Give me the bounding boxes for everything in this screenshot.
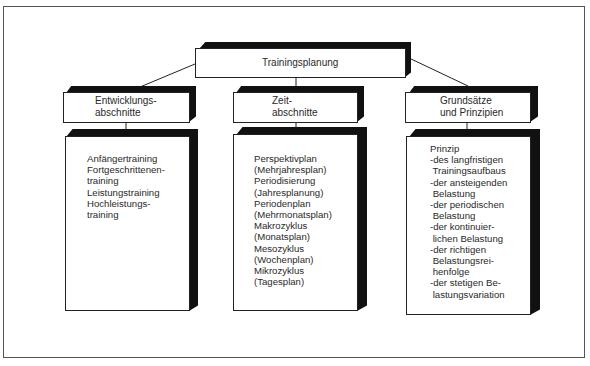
list-item: Periodenplan <box>254 198 332 209</box>
list-item: (Mehrjahresplan) <box>254 164 332 175</box>
principles-list: Prinzip -des langfristigen Trainingsaufb… <box>430 143 507 300</box>
list-item: (Jahresplanung) <box>254 187 332 198</box>
list-item: Belastungsrei- <box>430 255 507 266</box>
list-item: Fortgeschrittenen- <box>87 164 165 175</box>
list-item: Belastung <box>430 210 507 221</box>
list-item: training <box>87 175 165 186</box>
list-item: (Tagesplan) <box>254 276 332 287</box>
list-item: Makrozyklus <box>254 220 332 231</box>
list-item: -der periodischen <box>430 199 507 210</box>
list-item: (Mehrmonatsplan) <box>254 209 332 220</box>
list-item: Hochleistungs- <box>87 198 165 209</box>
list-item: Leistungstraining <box>87 187 165 198</box>
development-list: Anfängertraining Fortgeschrittenen- trai… <box>87 153 165 220</box>
list-item: Belastung <box>430 188 507 199</box>
title-label: Trainingsplanung <box>262 57 338 69</box>
list-item: -der stetigen Be- <box>430 277 507 288</box>
list-item: henfolge <box>430 266 507 277</box>
time-list: Perspektivplan (Mehrjahresplan) Periodis… <box>254 153 332 287</box>
list-item: training <box>87 209 165 220</box>
list-item: Anfängertraining <box>87 153 165 164</box>
list-item: -der richtigen <box>430 244 507 255</box>
header-label-principles: Grundsätze und Prinzipien <box>440 95 503 119</box>
list-item: (Monatsplan) <box>254 231 332 242</box>
list-item: Periodisierung <box>254 175 332 186</box>
list-item: Perspektivplan <box>254 153 332 164</box>
list-item: (Wochenplan) <box>254 254 332 265</box>
list-item: -der ansteigenden <box>430 177 507 188</box>
list-item: Prinzip <box>430 143 507 154</box>
list-item: -des langfristigen <box>430 154 507 165</box>
list-item: lichen Belastung <box>430 233 507 244</box>
header-label-development: Entwicklungs- abschnitte <box>95 95 157 119</box>
header-label-time: Zeit- abschnitte <box>272 95 318 119</box>
list-item: -der kontinuier- <box>430 221 507 232</box>
list-item: Mikrozyklus <box>254 265 332 276</box>
list-item: Trainingsaufbaus <box>430 165 507 176</box>
list-item: Mesozyklus <box>254 243 332 254</box>
list-item: lastungsvariation <box>430 289 507 300</box>
